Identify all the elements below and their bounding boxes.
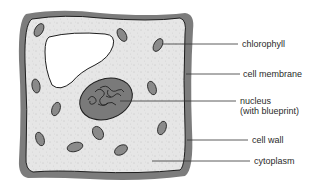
label-chlorophyll: chlorophyll (242, 39, 285, 49)
label-nucleus-subtext: (with blueprint) (240, 106, 299, 116)
label-nucleus: nucleus (240, 96, 271, 106)
label-cell-membrane: cell membrane (243, 69, 302, 79)
label-cytoplasm: cytoplasm (254, 156, 295, 166)
label-cell-wall: cell wall (252, 135, 284, 145)
